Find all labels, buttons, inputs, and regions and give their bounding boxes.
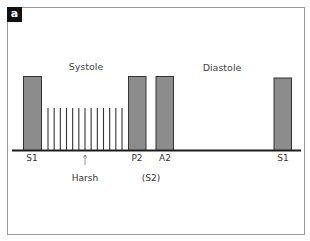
- p2-label: P2: [131, 153, 142, 163]
- harsh-arrow-icon: [84, 155, 87, 165]
- heart-sound-bar-s1: [24, 77, 42, 151]
- heart-sound-bars: [24, 77, 292, 151]
- harsh-murmur-lines: [48, 108, 122, 151]
- systole-label: Systole: [69, 61, 104, 72]
- heart-sound-bar-p2: [129, 77, 147, 151]
- heart-sound-bar-a2: [156, 77, 174, 151]
- harsh-label: Harsh: [72, 173, 98, 183]
- s2-label: (S2): [142, 173, 160, 183]
- s1-next-label: S1: [277, 153, 288, 163]
- s1-label: S1: [26, 153, 37, 163]
- heart-sound-bar-s1: [274, 78, 292, 151]
- phonocardiogram: [0, 0, 310, 241]
- diastole-label: Diastole: [203, 62, 242, 73]
- heart-sound-diagram: a Systole Diastole S1 P2 A2 S1 Harsh (S2…: [0, 0, 310, 241]
- a2-label: A2: [159, 153, 171, 163]
